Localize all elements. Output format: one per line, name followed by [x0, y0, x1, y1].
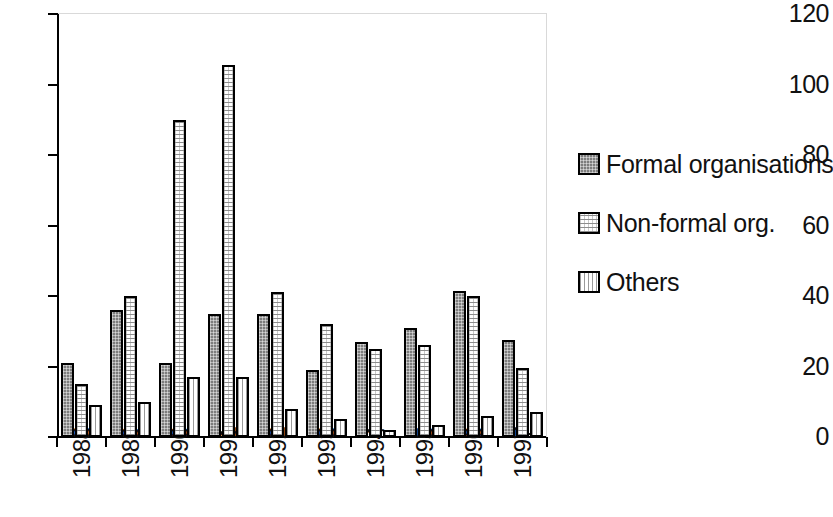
plot-area: [57, 14, 547, 437]
bar-formal-organisations-1989: [110, 310, 123, 437]
bar-group: [502, 14, 543, 437]
bar-non-formal-org-1991: [222, 65, 235, 437]
bar-formal-organisations-1990: [159, 363, 172, 437]
x-axis-tick-label: 1989: [118, 452, 144, 478]
bar-non-formal-org-1990: [173, 120, 186, 437]
legend-item-others: Others: [578, 266, 826, 298]
bar-group: [404, 14, 445, 437]
y-axis-tick-label: 100: [785, 72, 829, 97]
bar-non-formal-org-1989: [124, 296, 137, 437]
bar-others-1989: [138, 402, 151, 437]
bar-others-1992: [285, 409, 298, 437]
x-axis-tick-label: 1991: [216, 452, 242, 478]
bar-formal-organisations-1997: [502, 340, 515, 437]
y-axis-tick-label: 20: [785, 354, 829, 379]
x-axis-tick: [497, 437, 499, 447]
bar-non-formal-org-1992: [271, 292, 284, 437]
bar-others-1997: [530, 412, 543, 437]
legend-item-non-formal-org: Non-formal org.: [578, 207, 826, 239]
legend-swatch-non-formal-org-icon: [578, 212, 600, 234]
bar-others-1988: [89, 405, 102, 437]
bar-formal-organisations-1996: [453, 291, 466, 437]
x-axis-tick: [203, 437, 205, 447]
x-axis-tick: [56, 437, 58, 447]
x-axis-tick: [301, 437, 303, 447]
bar-group: [159, 14, 200, 437]
legend-item-formal-organisations: Formal organisations: [578, 148, 826, 180]
legend-label: Formal organisations: [606, 150, 833, 178]
bar-others-1993: [334, 419, 347, 437]
legend-swatch-others-icon: [578, 271, 600, 293]
bar-formal-organisations-1994: [355, 342, 368, 437]
legend-label: Others: [606, 268, 679, 296]
x-axis-tick: [399, 437, 401, 447]
bar-group: [453, 14, 494, 437]
bar-group: [110, 14, 151, 437]
bar-non-formal-org-1997: [516, 368, 529, 437]
bar-group: [306, 14, 347, 437]
bar-others-1991: [236, 377, 249, 437]
bar-others-1990: [187, 377, 200, 437]
chart-legend: Formal organisationsNon-formal org.Other…: [578, 148, 826, 325]
legend-label: Non-formal org.: [606, 209, 775, 237]
x-axis-tick-label: 1993: [314, 452, 340, 478]
bar-non-formal-org-1996: [467, 296, 480, 437]
bar-formal-organisations-1992: [257, 314, 270, 437]
x-axis-tick: [105, 437, 107, 447]
bar-formal-organisations-1991: [208, 314, 221, 437]
bar-non-formal-org-1993: [320, 324, 333, 437]
x-axis-tick-label: 1995: [412, 452, 438, 478]
x-axis-tick-label: 1988: [69, 452, 95, 478]
bar-others-1996: [481, 416, 494, 437]
bar-non-formal-org-1988: [75, 384, 88, 437]
bar-others-1995: [432, 425, 445, 437]
bar-non-formal-org-1995: [418, 345, 431, 437]
x-axis-tick: [154, 437, 156, 447]
bar-group: [61, 14, 102, 437]
bar-group: [208, 14, 249, 437]
bar-group: [257, 14, 298, 437]
x-axis-tick-label: 1996: [461, 452, 487, 478]
bar-formal-organisations-1995: [404, 328, 417, 437]
bar-others-1994: [383, 430, 396, 437]
bar-formal-organisations-1993: [306, 370, 319, 437]
bar-non-formal-org-1994: [369, 349, 382, 437]
y-axis-tick-label: 120: [785, 1, 829, 26]
y-axis-tick-label: 0: [785, 424, 829, 449]
x-axis-tick: [448, 437, 450, 447]
x-axis-tick: [546, 437, 548, 447]
legend-swatch-formal-organisations-icon: [578, 153, 600, 175]
x-axis-tick: [350, 437, 352, 447]
x-axis-tick-label: 1990: [167, 452, 193, 478]
x-axis-tick-label: 1992: [265, 452, 291, 478]
x-axis-tick-label: 1994: [363, 452, 389, 478]
x-axis-tick: [252, 437, 254, 447]
bar-group: [355, 14, 396, 437]
bar-formal-organisations-1988: [61, 363, 74, 437]
x-axis-tick-label: 1997: [510, 452, 536, 478]
